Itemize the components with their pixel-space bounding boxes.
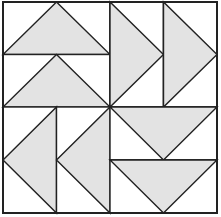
flying-geese-unit bbox=[164, 2, 218, 107]
flying-geese-unit bbox=[110, 2, 164, 107]
quadrant-bottom-left bbox=[3, 107, 110, 213]
flying-geese-unit bbox=[3, 107, 57, 213]
flying-geese-unit bbox=[3, 2, 110, 55]
quilt-block-diagram bbox=[0, 0, 221, 217]
flying-geese-unit bbox=[3, 55, 110, 108]
flying-geese-unit bbox=[110, 107, 217, 160]
flying-geese-unit bbox=[57, 107, 111, 213]
quadrant-top-left bbox=[3, 2, 110, 107]
flying-geese-unit bbox=[110, 160, 217, 213]
quadrant-bottom-right bbox=[110, 107, 217, 213]
quadrant-top-right bbox=[110, 2, 217, 107]
